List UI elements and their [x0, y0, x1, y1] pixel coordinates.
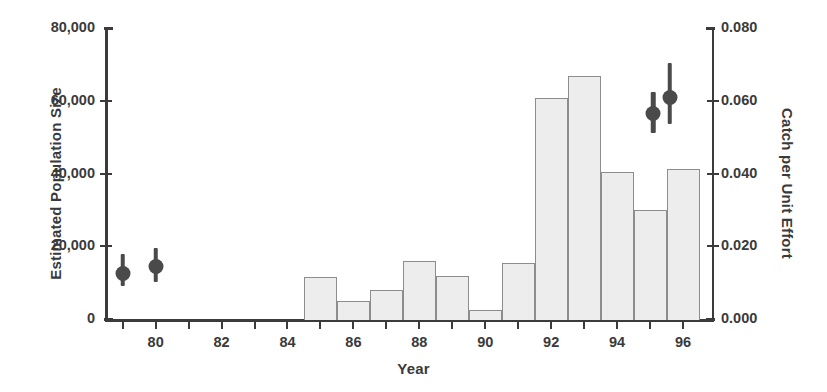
x-tick-93 [583, 320, 585, 329]
bar-92 [535, 98, 568, 320]
left-y-tick-label-0: 0 [17, 310, 95, 326]
x-tick-label-80: 80 [134, 334, 178, 350]
x-tick-label-96: 96 [661, 334, 705, 350]
left-y-tick-20000 [100, 245, 112, 247]
data-point-0 [113, 28, 133, 320]
x-tick-94 [616, 320, 618, 329]
x-tick-85 [319, 320, 321, 329]
right-y-tick-label-0.08: 0.080 [721, 19, 799, 35]
x-tick-89 [451, 320, 453, 329]
x-tick-81 [188, 320, 190, 329]
plot-area: 020,00040,00060,00080,000 0.0000.0200.04… [105, 28, 714, 320]
x-tick-label-94: 94 [595, 334, 639, 350]
right-y-tick-0.06 [707, 100, 719, 102]
right-y-tick-0.08 [706, 27, 715, 30]
x-tick-label-82: 82 [200, 334, 244, 350]
x-tick-label-86: 86 [331, 334, 375, 350]
bar-94 [601, 172, 634, 320]
x-tick-84 [286, 320, 288, 329]
x-tick-label-88: 88 [397, 334, 441, 350]
chart-figure: Estimated Population Size Catch per Unit… [0, 0, 827, 392]
left-y-tick-80000 [104, 27, 113, 30]
x-tick-87 [385, 320, 387, 329]
bar-86 [337, 301, 370, 320]
bar-87 [370, 290, 403, 320]
x-tick-91 [517, 320, 519, 329]
right-y-tick-0.02 [707, 245, 719, 247]
right-y-tick-0.04 [707, 173, 719, 175]
left-y-tick-label-80000: 80,000 [17, 19, 95, 35]
x-axis-title: Year [0, 360, 827, 377]
x-tick-82 [221, 320, 223, 329]
data-point-1 [146, 28, 166, 320]
left-y-tick-60000 [100, 100, 112, 102]
x-tick-95 [649, 320, 651, 329]
bar-85 [304, 277, 337, 320]
data-point-3 [660, 28, 680, 320]
x-tick-90 [484, 320, 486, 329]
x-tick-label-84: 84 [265, 334, 309, 350]
marker-dot-1 [148, 259, 163, 274]
right-y-tick-label-0.06: 0.060 [721, 92, 799, 108]
left-y-tick-0 [104, 318, 113, 321]
right-y-tick-label-0: 0.000 [721, 310, 799, 326]
x-tick-80 [155, 320, 157, 329]
left-y-tick-label-60000: 60,000 [17, 92, 95, 108]
marker-dot-3 [662, 90, 677, 105]
x-tick-83 [254, 320, 256, 329]
marker-dot-0 [115, 266, 130, 281]
bar-89 [436, 276, 469, 320]
right-y-tick-label-0.02: 0.020 [721, 237, 799, 253]
y-axis-right-line [712, 28, 715, 321]
left-y-tick-label-40000: 40,000 [17, 165, 95, 181]
x-tick-79 [122, 320, 124, 329]
x-tick-92 [550, 320, 552, 329]
bar-90 [469, 310, 502, 320]
left-y-tick-label-20000: 20,000 [17, 237, 95, 253]
right-y-tick-label-0.04: 0.040 [721, 165, 799, 181]
y-axis-left-line [105, 28, 108, 321]
x-tick-label-92: 92 [529, 334, 573, 350]
right-y-tick-0 [706, 318, 715, 321]
marker-dot-2 [646, 106, 661, 121]
x-tick-96 [682, 320, 684, 329]
bar-91 [502, 263, 535, 320]
x-tick-86 [352, 320, 354, 329]
x-tick-label-90: 90 [463, 334, 507, 350]
left-y-tick-40000 [100, 173, 112, 175]
bar-88 [403, 261, 436, 320]
bar-93 [568, 76, 601, 320]
x-tick-88 [418, 320, 420, 329]
